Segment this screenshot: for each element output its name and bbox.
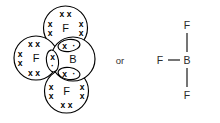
connector-label: or (116, 55, 124, 66)
cross-pair: x (48, 28, 53, 38)
bond-pair-cross: x (62, 41, 67, 51)
atom-label-fluorine-top: F (62, 22, 69, 34)
cross-pair: x x (28, 39, 40, 49)
cross-pair: x (49, 91, 54, 101)
structural-atom-boron: B (183, 54, 190, 66)
structural-atom-fluorine-left: F (157, 54, 163, 66)
cross-pair: x x (60, 9, 72, 19)
bf3-bonding-figure: x x x x x x x x x x x x x x x x x x (0, 0, 220, 123)
structural-atom-fluorine-bottom: F (184, 89, 190, 101)
structural-formula: F F F B (157, 19, 191, 101)
bond-pair-dot: · (73, 41, 76, 51)
cross-pair: x (80, 91, 85, 101)
atom-label-fluorine-left: F (33, 52, 40, 64)
cross-pair: x x (61, 100, 73, 110)
atom-label-fluorine-bottom: F (63, 85, 70, 97)
bond-pair-dot: · (73, 69, 76, 79)
bond-pair-dot: · (51, 61, 54, 71)
cross-pair: x (79, 28, 84, 38)
structural-atom-fluorine-top: F (184, 19, 190, 31)
cross-pair: x x (28, 68, 40, 78)
atom-label-boron: B (69, 53, 76, 65)
dot-cross-model: x x x x x x x x x x x x x x x x x x (14, 6, 95, 113)
bond-pair-cross: x (62, 69, 67, 79)
figure-canvas: x x x x x x x x x x x x x x x x x x (0, 0, 220, 123)
cross-pair: x (18, 58, 23, 68)
